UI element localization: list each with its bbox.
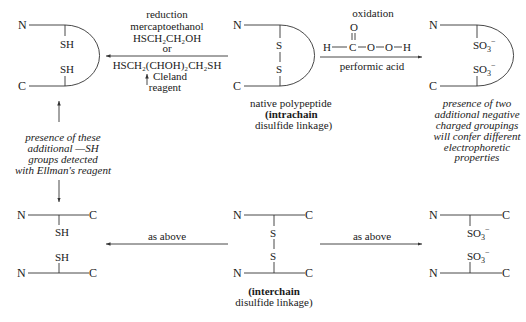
n-terminus-label: N xyxy=(429,18,438,32)
oxidized-interchain-structure: N C SO3− SO3− N C xyxy=(429,208,510,280)
formula-o-top: O xyxy=(350,21,358,33)
formula-h1: H xyxy=(323,41,331,53)
mercaptoethanol-label: mercaptoethanol xyxy=(130,20,203,32)
native-interchain-structure: N C S S N C (interchain disulfide linkag… xyxy=(233,208,313,309)
svg-text:N: N xyxy=(429,208,438,222)
c-terminus-label: C xyxy=(18,79,26,93)
oxidized-note: presence of two additional negative char… xyxy=(434,97,522,163)
n-terminus-label: N xyxy=(233,18,242,32)
formula-o1: O xyxy=(367,41,375,53)
svg-text:SH: SH xyxy=(55,226,69,238)
polypeptide-chain-loop xyxy=(29,25,100,86)
disulfide-reaction-diagram: N C SH SH reduction mercaptoethanol HSCH… xyxy=(0,0,526,322)
reduction-title: reduction xyxy=(146,8,188,20)
svg-text:N: N xyxy=(233,208,242,222)
svg-text:SH: SH xyxy=(55,251,69,263)
formula-o2: O xyxy=(385,41,393,53)
svg-text:C: C xyxy=(89,208,97,222)
c-terminus-label: C xyxy=(429,79,437,93)
svg-text:N: N xyxy=(233,266,242,280)
reduced-intrachain-structure: N C SH SH xyxy=(18,18,100,93)
cleland-reagent-label: reagent xyxy=(149,81,181,93)
svg-text:SO3−: SO3− xyxy=(467,225,490,242)
svg-text:properties: properties xyxy=(454,151,500,163)
svg-text:SO3−: SO3− xyxy=(467,248,490,265)
interchain-caption-line2: disulfide linkage) xyxy=(235,296,313,309)
svg-text:N: N xyxy=(17,266,26,280)
c-terminus-label: C xyxy=(233,79,241,93)
or-label: or xyxy=(162,42,172,54)
sulfonate-group-top: SO3− xyxy=(473,37,496,54)
sulfur-atom-bottom: S xyxy=(276,63,282,75)
svg-text:S: S xyxy=(270,250,276,262)
sulfur-atom-top: S xyxy=(276,39,282,51)
svg-text:N: N xyxy=(17,208,26,222)
as-above-right-label: as above xyxy=(353,230,391,242)
svg-text:C: C xyxy=(502,266,510,280)
performic-acid-label: performic acid xyxy=(340,60,405,72)
sulfonate-group-bottom: SO3− xyxy=(473,61,496,78)
polypeptide-chain-loop xyxy=(244,25,315,86)
svg-text:N: N xyxy=(429,266,438,280)
svg-text:C: C xyxy=(502,208,510,222)
as-above-left-label: as above xyxy=(148,230,186,242)
reduction-arrow-group: reduction mercaptoethanol HSCH₂CH₂OH or … xyxy=(106,8,228,93)
svg-text:with Ellman's reagent: with Ellman's reagent xyxy=(15,164,112,176)
formula-c: C xyxy=(349,41,356,53)
reduced-interchain-structure: N C SH SH N C xyxy=(17,208,97,280)
oxidized-intrachain-structure: N C SO3− SO3− xyxy=(429,18,514,93)
oxidation-arrow-group: oxidation O H C O O H performic acid xyxy=(320,7,422,72)
native-caption-line3: disulfide linkage) xyxy=(255,119,333,132)
svg-text:C: C xyxy=(89,266,97,280)
sh-group-bottom: SH xyxy=(60,63,74,75)
n-terminus-label: N xyxy=(18,18,27,32)
svg-text:S: S xyxy=(270,227,276,239)
svg-text:C: C xyxy=(305,266,313,280)
native-intrachain-structure: N C S S native polypeptide (intrachain d… xyxy=(233,18,333,132)
sh-group-top: SH xyxy=(60,38,74,50)
reduced-note: presence of these additional —SH groups … xyxy=(15,101,112,202)
oxidation-title: oxidation xyxy=(352,7,394,19)
svg-text:C: C xyxy=(305,208,313,222)
formula-h2: H xyxy=(403,41,411,53)
